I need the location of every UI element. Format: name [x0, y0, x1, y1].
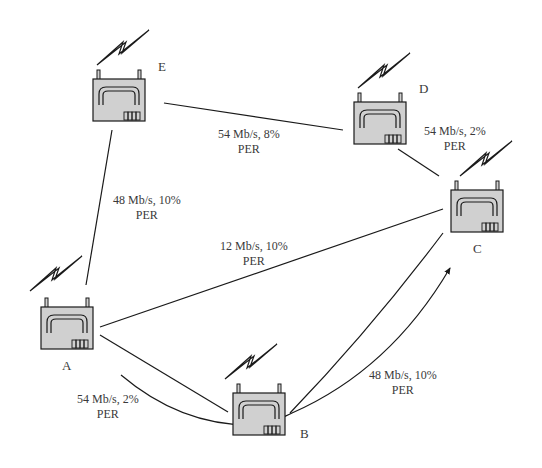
router-E: [93, 30, 149, 121]
link-per: PER: [220, 254, 288, 269]
node-label-D: D: [419, 81, 428, 97]
wireless-signal-icon: [225, 344, 277, 379]
node-label-C: C: [473, 241, 482, 257]
wireless-signal-icon: [358, 53, 410, 88]
router-B: [225, 344, 285, 435]
link-per: PER: [218, 142, 280, 157]
wireless-signal-icon: [30, 256, 82, 291]
link-rate: 48 Mb/s, 10%: [369, 368, 437, 383]
wireless-router-icon: [41, 298, 93, 349]
link-label-B-C: 48 Mb/s, 10% PER: [369, 368, 437, 398]
link-E-D: [164, 103, 343, 130]
node-label-B: B: [300, 426, 309, 442]
link-per: PER: [369, 383, 437, 398]
link-per: PER: [424, 139, 486, 154]
wireless-router-icon: [93, 70, 145, 121]
link-rate: 54 Mb/s, 8%: [218, 127, 280, 142]
router-C: [451, 141, 512, 232]
link-rate: 54 Mb/s, 2%: [77, 392, 139, 407]
node-label-E: E: [158, 59, 166, 75]
router-A: [30, 256, 93, 349]
link-per: PER: [113, 208, 181, 223]
link-per: PER: [77, 407, 139, 422]
node-label-A: A: [62, 358, 71, 374]
wireless-router-icon: [451, 181, 503, 232]
link-label-D-C: 54 Mb/s, 2% PER: [424, 124, 486, 154]
link-rate: 48 Mb/s, 10%: [113, 193, 181, 208]
link-label-E-A: 48 Mb/s, 10% PER: [113, 193, 181, 223]
link-label-A-C: 12 Mb/s, 10% PER: [220, 239, 288, 269]
wireless-router-icon: [354, 93, 406, 144]
link-label-E-D: 54 Mb/s, 8% PER: [218, 127, 280, 157]
wireless-signal-icon: [97, 30, 149, 65]
link-E-A: [86, 130, 112, 285]
link-rate: 54 Mb/s, 2%: [424, 124, 486, 139]
link-rate: 12 Mb/s, 10%: [220, 239, 288, 254]
wireless-router-icon: [233, 384, 285, 435]
router-D: [354, 53, 410, 144]
link-label-A-B: 54 Mb/s, 2% PER: [77, 392, 139, 422]
